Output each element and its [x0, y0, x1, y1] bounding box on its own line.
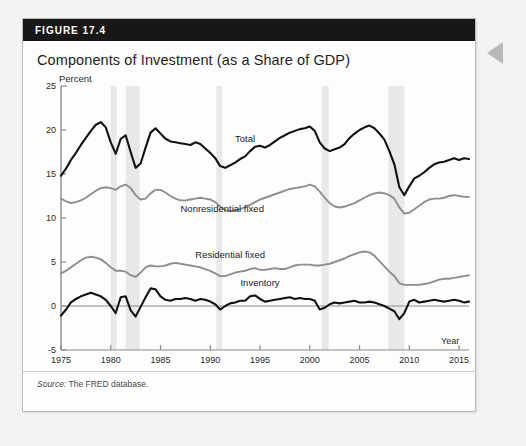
y-tick-label: 20 — [46, 125, 56, 135]
series-line-inventory — [61, 288, 469, 319]
figure-number-label: FIGURE 17.4 — [35, 25, 106, 36]
investment-line-chart: -505101520251975198019851990199520002005… — [23, 68, 475, 368]
series-label-total: Total — [235, 133, 255, 144]
figure-card: FIGURE 17.4 Components of Investment (as… — [22, 18, 476, 412]
x-tick-label: 2005 — [350, 355, 370, 365]
y-tick-label: 10 — [46, 213, 56, 223]
x-tick-label: 1985 — [150, 355, 170, 365]
figure-title: Components of Investment (as a Share of … — [23, 41, 475, 68]
x-tick-label: 2000 — [300, 355, 320, 365]
figure-header: FIGURE 17.4 — [23, 19, 475, 41]
source-prefix: Source: — [37, 379, 66, 389]
x-tick-label: 1990 — [200, 355, 220, 365]
recession-band — [126, 86, 140, 350]
series-line-total — [61, 122, 469, 195]
x-tick-label: 2010 — [399, 355, 419, 365]
left-pointing-triangle-icon — [487, 42, 503, 64]
y-axis-unit-label: Percent — [59, 73, 92, 84]
source-note: Source: The FRED database. — [23, 371, 475, 389]
chart-area: Percent -5051015202519751980198519901995… — [23, 68, 475, 368]
y-tick-label: 5 — [51, 257, 56, 267]
x-axis-label: Year — [441, 336, 459, 346]
x-tick-label: 1980 — [101, 355, 121, 365]
recession-band — [216, 86, 222, 350]
x-tick-label: 1975 — [51, 355, 71, 365]
recession-band — [322, 86, 329, 350]
y-tick-label: 0 — [51, 301, 56, 311]
x-tick-label: 2015 — [449, 355, 469, 365]
source-text: The FRED database. — [66, 379, 148, 389]
series-label-inventory: Inventory — [240, 277, 279, 288]
x-tick-label: 1995 — [250, 355, 270, 365]
y-tick-label: -5 — [48, 345, 56, 355]
y-tick-label: 15 — [46, 169, 56, 179]
series-label-residential-fixed: Residential fixed — [195, 249, 265, 260]
y-tick-label: 25 — [46, 81, 56, 91]
series-label-nonresidential-fixed: Nonresidential fixed — [180, 203, 263, 214]
page-root: FIGURE 17.4 Components of Investment (as… — [0, 0, 526, 446]
